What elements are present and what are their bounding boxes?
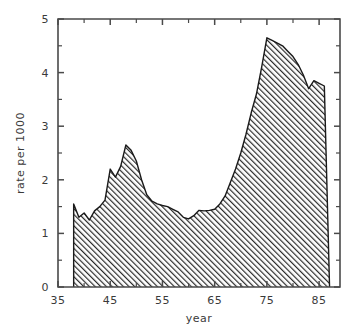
y-tick-label: 4 [42, 67, 50, 80]
y-tick-label: 1 [42, 227, 50, 240]
chart-figure: 354555657585 012345 year rate per 1000 [0, 0, 362, 331]
plot-area [74, 38, 330, 287]
x-axis-label: year [186, 312, 213, 325]
area-chart: 354555657585 012345 year rate per 1000 [0, 0, 362, 331]
x-tick-label: 85 [312, 294, 327, 307]
x-tick-label: 35 [51, 294, 66, 307]
y-tick-label: 0 [42, 281, 50, 294]
x-axis-tick-labels: 354555657585 [51, 294, 327, 307]
x-tick-label: 65 [207, 294, 222, 307]
x-tick-label: 75 [259, 294, 274, 307]
y-tick-label: 5 [42, 13, 50, 26]
y-tick-label: 2 [42, 174, 50, 187]
y-axis-label: rate per 1000 [14, 112, 27, 194]
area-fill [74, 38, 330, 287]
x-tick-label: 45 [103, 294, 118, 307]
x-tick-label: 55 [155, 294, 170, 307]
y-tick-label: 3 [42, 120, 50, 133]
y-axis-tick-labels: 012345 [42, 13, 50, 294]
